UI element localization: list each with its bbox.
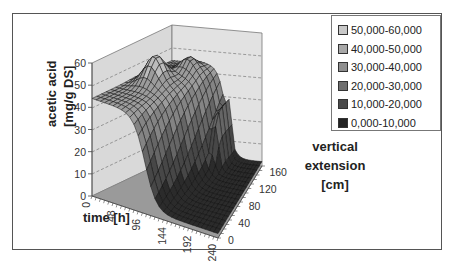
svg-text:0: 0 [80, 190, 86, 202]
legend-swatch [338, 44, 348, 54]
svg-text:0: 0 [228, 234, 234, 246]
y-axis-title-line1: acetic acid [43, 67, 60, 127]
svg-text:240: 240 [206, 244, 218, 262]
svg-text:80: 80 [249, 200, 261, 212]
svg-text:0: 0 [80, 202, 92, 208]
svg-text:144: 144 [156, 227, 168, 245]
svg-text:40: 40 [238, 217, 250, 229]
legend-swatch [338, 99, 348, 109]
svg-text:160: 160 [269, 166, 287, 178]
svg-text:120: 120 [259, 183, 277, 195]
z-axis-title: vertical extension [cm] [290, 137, 380, 194]
legend-swatch [338, 62, 348, 72]
legend-item: 0,000-10,000 [332, 114, 440, 133]
legend-item: 20,000-30,000 [332, 77, 440, 96]
legend-label: 40,000-50,000 [351, 43, 422, 55]
y-axis-title-line2: [mg/g DS] [60, 67, 77, 127]
legend-swatch [338, 118, 348, 128]
legend-item: 50,000-60,000 [332, 21, 440, 40]
svg-text:192: 192 [181, 235, 193, 253]
legend: 50,000-60,000 40,000-50,000 30,000-40,00… [331, 15, 441, 131]
z-axis-title-line1: vertical [290, 137, 380, 156]
svg-text:10: 10 [74, 168, 86, 180]
svg-text:20: 20 [74, 146, 86, 158]
svg-text:96: 96 [130, 219, 142, 231]
y-axis-title: acetic acid [mg/g DS] [43, 67, 77, 127]
z-axis-title-line2: extension [290, 156, 380, 175]
legend-swatch [338, 81, 348, 91]
legend-item: 40,000-50,000 [332, 40, 440, 59]
z-axis-title-line3: [cm] [290, 175, 380, 194]
legend-label: 0,000-10,000 [351, 117, 416, 129]
legend-label: 50,000-60,000 [351, 24, 422, 36]
legend-label: 30,000-40,000 [351, 61, 422, 73]
legend-item: 10,000-20,000 [332, 95, 440, 114]
legend-swatch [338, 25, 348, 35]
legend-label: 10,000-20,000 [351, 98, 422, 110]
legend-item: 30,000-40,000 [332, 58, 440, 77]
legend-label: 20,000-30,000 [351, 80, 422, 92]
x-axis-title: time [h] [83, 210, 130, 225]
